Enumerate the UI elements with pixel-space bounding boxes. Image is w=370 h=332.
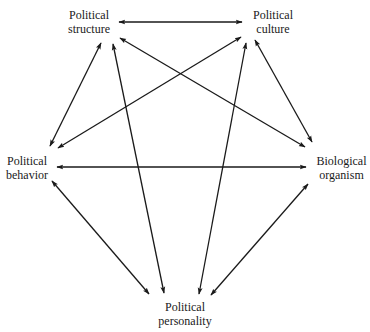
node-political-personality: Political personality xyxy=(148,300,222,328)
node-label-line1: Political xyxy=(0,154,54,168)
influence-diagram: Political structure Political culture Po… xyxy=(0,0,370,332)
node-biological-organism: Biological organism xyxy=(313,154,370,182)
edge-culture-personality xyxy=(199,43,246,294)
node-label-line1: Political xyxy=(60,8,118,22)
node-political-behavior: Political behavior xyxy=(0,154,54,182)
edge-behavior-personality xyxy=(52,181,149,294)
edge-structure-personality xyxy=(113,44,164,293)
node-label-line1: Political xyxy=(244,8,302,22)
node-label-line1: Political xyxy=(148,300,222,314)
node-label-line2: structure xyxy=(60,22,118,36)
edge-organism-personality xyxy=(211,184,308,295)
node-label-line2: culture xyxy=(244,22,302,36)
node-label-line1: Biological xyxy=(313,154,370,168)
edge-culture-organism xyxy=(255,40,312,142)
node-political-structure: Political structure xyxy=(60,8,118,36)
node-political-culture: Political culture xyxy=(244,8,302,36)
node-label-line2: behavior xyxy=(0,168,54,182)
node-label-line2: personality xyxy=(148,314,222,328)
node-label-line2: organism xyxy=(313,168,370,182)
edge-structure-behavior xyxy=(50,43,101,146)
